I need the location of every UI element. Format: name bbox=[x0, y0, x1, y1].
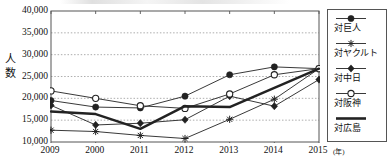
series-open-circle bbox=[50, 66, 320, 112]
plot-area bbox=[50, 10, 318, 141]
chart-legend: 対巨人対ヤクルト対中日対阪神対広島 bbox=[327, 9, 387, 142]
legend-label: 対ヤクルト bbox=[334, 48, 386, 59]
legend-marker-filled-circle-icon bbox=[334, 14, 368, 23]
y-axis-tick-label: 20,000 bbox=[4, 92, 48, 102]
x-axis-tick-label: 2009 bbox=[41, 145, 60, 156]
y-axis-ticks: 40,00035,00030,00025,00020,00015,00010,0… bbox=[0, 0, 48, 163]
scan-artifact bbox=[60, 0, 290, 4]
legend-label: 対巨人 bbox=[334, 23, 386, 34]
legend-item-1[interactable]: 対巨人 bbox=[328, 14, 386, 39]
legend-marker-filled-diamond-icon bbox=[334, 64, 368, 73]
series-filled-circle bbox=[50, 64, 320, 111]
x-axis-tick-label: 2012 bbox=[175, 145, 194, 156]
x-axis-tick-label: 2015 bbox=[309, 145, 328, 156]
x-axis-unit-label: (年) bbox=[333, 148, 345, 157]
y-axis-tick-label: 30,000 bbox=[4, 49, 48, 59]
x-axis-tick-label: 2000 bbox=[85, 145, 104, 156]
y-axis-tick-label: 15,000 bbox=[4, 114, 48, 124]
legend-item-2[interactable]: 対ヤクルト bbox=[328, 39, 386, 64]
y-axis-tick-label: 40,000 bbox=[4, 5, 48, 15]
x-axis-tick-label: 2013 bbox=[219, 145, 238, 156]
legend-marker-thick-line-icon bbox=[334, 114, 368, 123]
series-filled-diamond bbox=[50, 76, 320, 129]
y-axis-tick-label: 35,000 bbox=[4, 27, 48, 37]
x-axis-ticks: 2009200020112012201320142015(年) bbox=[0, 143, 391, 163]
legend-marker-asterisk-icon bbox=[334, 39, 368, 48]
x-axis-tick-label: 2011 bbox=[130, 145, 149, 156]
y-axis-tick-label: 25,000 bbox=[4, 71, 48, 81]
chart-canvas bbox=[50, 10, 320, 143]
legend-label: 対阪神 bbox=[334, 98, 386, 109]
legend-item-3[interactable]: 対中日 bbox=[328, 64, 386, 89]
legend-label: 対中日 bbox=[334, 73, 386, 84]
legend-item-5[interactable]: 対広島 bbox=[328, 114, 386, 139]
chart-root: 人 数 40,00035,00030,00025,00020,00015,000… bbox=[0, 0, 391, 163]
x-axis-tick-label: 2014 bbox=[264, 145, 283, 156]
legend-item-4[interactable]: 対阪神 bbox=[328, 89, 386, 114]
legend-label: 対広島 bbox=[334, 123, 386, 134]
legend-marker-open-circle-icon bbox=[334, 89, 368, 98]
